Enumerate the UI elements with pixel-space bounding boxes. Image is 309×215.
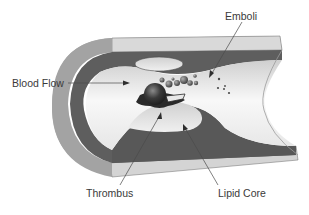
artery-diagram: Blood Flow Emboli Thrombus Lipid Core [0, 0, 309, 215]
label-blood-flow: Blood Flow [12, 78, 64, 89]
artery-illustration [0, 0, 309, 215]
label-lipid-core: Lipid Core [218, 188, 266, 199]
label-thrombus: Thrombus [86, 188, 133, 199]
upper-plaque [135, 57, 183, 71]
figure-caption-cropped [0, 207, 309, 215]
label-emboli: Emboli [225, 11, 257, 22]
